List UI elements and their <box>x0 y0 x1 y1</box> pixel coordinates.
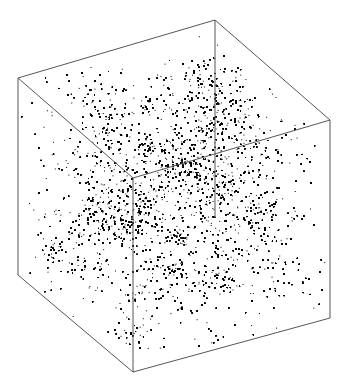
cube-edge <box>18 20 215 78</box>
cube-edge <box>18 78 133 178</box>
cube-point-cloud-figure <box>0 0 347 388</box>
cube-edge <box>18 275 133 372</box>
cube-edges <box>0 0 347 388</box>
cube-edge <box>215 20 330 120</box>
cube-edge <box>133 120 330 178</box>
cube-edge <box>133 318 330 372</box>
